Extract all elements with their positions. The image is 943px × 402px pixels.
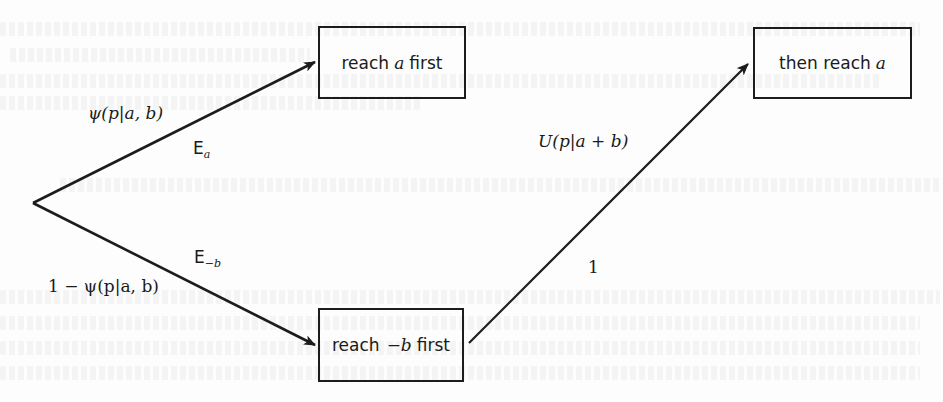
event-subscript: a: [204, 148, 211, 161]
node-then-reach-a: then reach a: [753, 27, 912, 99]
event-subscript: −b: [205, 257, 221, 270]
label-event-a: Ea: [193, 138, 210, 161]
node-text: first: [417, 335, 450, 355]
event-letter: E: [193, 138, 204, 158]
node-reach-minus-b-first: reach −b first: [318, 308, 464, 382]
edge-origin-to-reach-a-first: [33, 62, 315, 203]
edge-origin-to-reach-minus-b-first: [33, 203, 315, 345]
node-reach-a-first: reach a first: [318, 26, 466, 99]
label-one-minus-psi-text: 1 − ψ(p|a, b): [48, 276, 159, 296]
node-text: then reach: [779, 53, 871, 73]
node-math-minus-b: −b: [387, 335, 412, 355]
label-one-minus-psi: 1 − ψ(p|a, b): [48, 276, 159, 296]
label-event-minus-b: E−b: [194, 247, 221, 270]
event-letter: E: [194, 247, 205, 267]
label-u: U(p|a + b): [538, 131, 628, 151]
node-text: reach: [342, 53, 390, 73]
node-math-a: a: [394, 53, 404, 73]
node-text: reach: [332, 335, 380, 355]
probability-tree-diagram: reach a first then reach a reach −b firs…: [0, 0, 943, 402]
edge-reach-minus-b-to-then-reach-a: [469, 64, 748, 343]
label-psi: ψ(p|a, b): [88, 103, 163, 123]
node-text: first: [409, 53, 442, 73]
node-math-a: a: [876, 53, 886, 73]
label-one: 1: [588, 257, 599, 277]
